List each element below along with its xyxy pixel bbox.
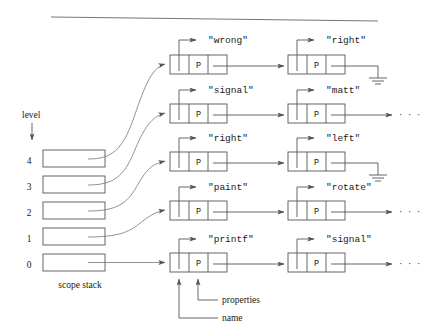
properties-callout-leader [198, 279, 218, 300]
node-name-label: "signal" [326, 234, 372, 245]
level-number-0: 0 [27, 260, 32, 270]
node-rotate[interactable]: P "rotate" [288, 182, 372, 220]
node-right-l2[interactable]: P "right" [170, 133, 248, 171]
list-row-level-0: P "printf" P "signal" · · · [170, 234, 422, 272]
level-number-1: 1 [27, 234, 32, 244]
list-row-level-2: P "right" P "left" [170, 133, 387, 181]
top-horizontal-rule [51, 17, 378, 21]
properties-cell-label: P [314, 61, 319, 71]
node-signal-l3[interactable]: P "signal" [170, 85, 254, 123]
node-printf[interactable]: P "printf" [170, 234, 254, 272]
ellipsis-l3: · · · [399, 109, 422, 120]
properties-cell-label: P [196, 110, 201, 120]
node-name-label: "wrong" [208, 35, 248, 46]
level-label: level [22, 110, 41, 120]
properties-cell-label: P [314, 207, 319, 217]
ellipsis-l0: · · · [399, 258, 422, 269]
node-matt[interactable]: P "matt" [288, 85, 360, 123]
connector-slot3-to-row1 [88, 113, 165, 185]
name-callout-leader [179, 279, 218, 318]
annotation-properties: properties [198, 279, 260, 305]
scope-stack-diagram: level 4 3 2 1 0 scope stack [0, 0, 422, 328]
node-left[interactable]: P "left" [288, 133, 360, 171]
level-number-3: 3 [27, 182, 32, 192]
level-number-4: 4 [27, 156, 32, 166]
node-name-label: "paint" [208, 182, 248, 193]
scope-stack-caption: scope stack [58, 280, 102, 290]
node-right-l4[interactable]: P "right" [288, 35, 366, 74]
node-name-label: "rotate" [326, 182, 372, 193]
ellipsis-l1: · · · [399, 206, 422, 217]
node-signal-l0[interactable]: P "signal" [288, 234, 372, 272]
ground-lead [345, 163, 378, 175]
list-row-level-4: P "wrong" P "right" [170, 35, 387, 84]
node-name-label: "printf" [208, 234, 254, 245]
properties-cell-label: P [196, 259, 201, 269]
properties-cell-label: P [196, 158, 201, 168]
properties-cell-label: P [196, 61, 201, 71]
node-name-label: "left" [326, 133, 360, 144]
node-name-label: "signal" [208, 85, 254, 96]
node-name-label: "matt" [326, 85, 360, 96]
list-row-level-3: P "signal" P "matt" · · · [170, 85, 422, 123]
connector-slot4-to-row0 [88, 64, 165, 159]
properties-cell-label: P [196, 207, 201, 217]
node-name-label: "right" [326, 35, 366, 46]
name-callout-label: name [222, 313, 243, 323]
node-paint[interactable]: P "paint" [170, 182, 248, 220]
figure-canvas: level 4 3 2 1 0 scope stack [0, 0, 422, 328]
properties-cell-label: P [314, 259, 319, 269]
ground-lead [345, 66, 378, 78]
properties-cell-label: P [314, 110, 319, 120]
properties-cell-label: P [314, 158, 319, 168]
level-number-2: 2 [27, 208, 32, 218]
null-terminator-ground-l2 [345, 163, 387, 181]
list-row-level-1: P "paint" P "rotate" · · · [170, 182, 422, 220]
node-name-label: "right" [208, 133, 248, 144]
null-terminator-ground-l4 [345, 66, 387, 84]
properties-callout-label: properties [222, 295, 260, 305]
node-wrong[interactable]: P "wrong" [170, 35, 248, 74]
